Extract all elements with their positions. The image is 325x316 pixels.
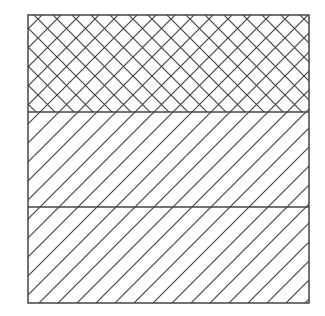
top-region (28, 15, 309, 112)
middle-region (28, 112, 309, 207)
bottom-region (28, 207, 309, 303)
hatched-diagram (0, 0, 325, 316)
